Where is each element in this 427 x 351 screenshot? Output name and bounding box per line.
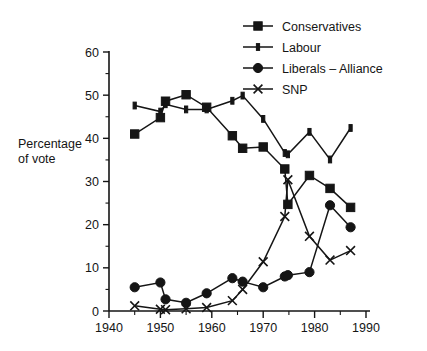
data-point-liberals-alliance xyxy=(161,295,170,304)
y-axis-tick-label: 0 xyxy=(92,305,99,319)
data-point-conservatives xyxy=(238,144,246,152)
data-point-liberals-alliance xyxy=(305,268,314,277)
y-axis-title-line1: Percentage xyxy=(18,137,82,151)
legend-label-conservatives: Conservatives xyxy=(282,20,361,34)
y-axis-tick-label: 50 xyxy=(85,89,99,103)
data-point-liberals-alliance xyxy=(283,271,292,280)
legend-marker-conservatives xyxy=(254,22,262,30)
y-axis-title-line2: of vote xyxy=(18,152,56,166)
data-point-conservatives xyxy=(228,132,236,140)
data-point-liberals-alliance xyxy=(228,274,237,283)
x-axis-tick-label: 1940 xyxy=(95,321,123,335)
y-axis-tick-label: 20 xyxy=(85,218,99,232)
data-point-labour xyxy=(159,108,162,115)
data-point-conservatives xyxy=(305,171,313,179)
data-point-liberals-alliance xyxy=(346,223,355,232)
data-point-labour xyxy=(231,97,234,104)
x-axis-tick-label: 1980 xyxy=(301,321,329,335)
data-point-labour xyxy=(308,128,311,135)
data-point-labour xyxy=(328,156,331,163)
data-point-labour xyxy=(185,106,188,113)
data-point-conservatives xyxy=(281,165,289,173)
legend-marker-liberals-alliance xyxy=(253,63,262,72)
data-point-labour xyxy=(164,101,167,108)
x-axis-tick-label: 1970 xyxy=(249,321,277,335)
data-point-labour xyxy=(241,92,244,99)
x-axis-tick-label: 1950 xyxy=(146,321,174,335)
data-point-labour xyxy=(133,102,136,109)
data-point-liberals-alliance xyxy=(325,201,334,210)
data-point-snp xyxy=(259,257,268,266)
data-point-conservatives xyxy=(182,91,190,99)
data-point-conservatives xyxy=(326,184,334,192)
chart-container: 0102030405060194019501960197019801990Per… xyxy=(0,0,427,351)
data-point-liberals-alliance xyxy=(202,289,211,298)
data-point-conservatives xyxy=(346,203,354,211)
data-point-conservatives xyxy=(131,130,139,138)
data-point-snp xyxy=(326,256,335,265)
y-axis-tick-label: 60 xyxy=(85,46,99,60)
y-axis-tick-label: 10 xyxy=(85,261,99,275)
data-point-liberals-alliance xyxy=(238,277,247,286)
data-point-snp xyxy=(305,232,314,241)
legend-label-liberals-alliance: Liberals – Alliance xyxy=(282,62,383,76)
data-point-liberals-alliance xyxy=(156,278,165,287)
data-point-snp xyxy=(228,296,237,305)
legend-marker-labour xyxy=(256,44,259,51)
data-point-labour xyxy=(349,125,352,132)
data-point-snp xyxy=(346,246,355,255)
line-chart-plot: 0102030405060194019501960197019801990Per… xyxy=(0,0,427,351)
legend-label-labour: Labour xyxy=(282,41,321,55)
data-point-conservatives xyxy=(284,200,292,208)
data-point-labour xyxy=(262,116,265,123)
data-point-liberals-alliance xyxy=(259,283,268,292)
x-axis-tick-label: 1960 xyxy=(198,321,226,335)
data-point-conservatives xyxy=(259,143,267,151)
y-axis-tick-label: 40 xyxy=(85,132,99,146)
data-point-labour xyxy=(205,106,208,113)
x-axis-tick-label: 1990 xyxy=(352,321,380,335)
y-axis-tick-label: 30 xyxy=(85,175,99,189)
legend-label-snp: SNP xyxy=(282,83,308,97)
data-point-labour xyxy=(286,151,289,158)
data-point-liberals-alliance xyxy=(130,283,139,292)
